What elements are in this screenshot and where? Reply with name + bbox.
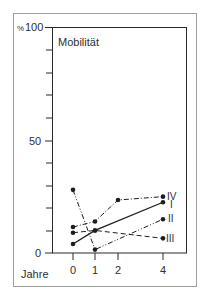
series-line-III <box>73 230 163 238</box>
y-tick-50-label: 50 <box>29 135 41 147</box>
series-label-III: III <box>166 233 174 244</box>
data-point-II <box>161 217 166 222</box>
chart: % 100 50 0 Mobilität Jahre 0 1 2 4 IV I … <box>0 0 203 301</box>
data-point-I <box>161 200 166 205</box>
y-axis-ticks <box>45 28 53 254</box>
x-tick-2-label: 2 <box>115 264 121 276</box>
series-label-I: I <box>170 199 173 210</box>
data-point-III <box>93 228 98 233</box>
data-point-IV <box>71 225 76 230</box>
x-axis-label: Jahre <box>21 268 49 280</box>
data-point-IV <box>93 219 98 224</box>
data-point-II <box>71 188 76 193</box>
data-point-III <box>161 236 166 241</box>
series-layer <box>71 188 166 252</box>
y-tick-100-label: 100 <box>25 21 43 33</box>
outer-frame <box>14 14 197 287</box>
series-label-II: II <box>168 213 174 224</box>
chart-title: Mobilität <box>58 36 99 48</box>
x-tick-4-label: 4 <box>160 264 166 276</box>
data-point-IV <box>161 194 166 199</box>
plot-area <box>53 28 187 254</box>
data-point-III <box>71 230 76 235</box>
data-point-I <box>71 242 76 247</box>
y-tick-0-label: 0 <box>35 247 41 259</box>
x-tick-1-label: 1 <box>92 264 98 276</box>
x-tick-0-label: 0 <box>70 264 76 276</box>
data-point-IV <box>116 198 121 203</box>
data-point-II <box>93 247 98 252</box>
y-unit-label: % <box>17 24 24 33</box>
x-axis-ticks <box>73 253 163 260</box>
